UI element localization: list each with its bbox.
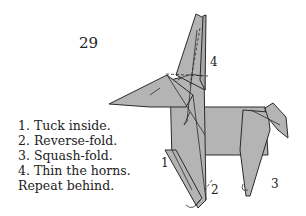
- callout-1: 1: [161, 156, 169, 170]
- origami-diagram: 1 2 3 4: [0, 0, 306, 216]
- callout-3: 3: [271, 177, 279, 191]
- callout-2: 2: [211, 183, 219, 197]
- callout-4: 4: [210, 55, 218, 69]
